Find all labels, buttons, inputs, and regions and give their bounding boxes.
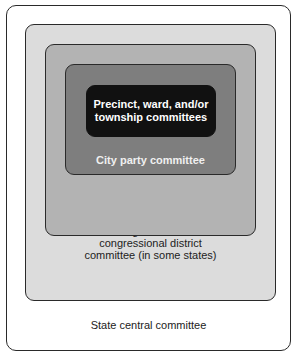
precinct-committee-label: Precinct, ward, and/or township committe… [87, 98, 215, 124]
state-central-committee-label: State central committee [7, 319, 290, 331]
city-party-committee-label: City party committee [66, 154, 235, 166]
label-line: committee (in some states) [26, 249, 275, 261]
precinct-committee-box: Precinct, ward, and/or township committe… [86, 85, 216, 137]
label-line: Precinct, ward, and/or [87, 98, 215, 111]
label-line: township committees [87, 111, 215, 124]
label-line: congressional district [26, 237, 275, 249]
